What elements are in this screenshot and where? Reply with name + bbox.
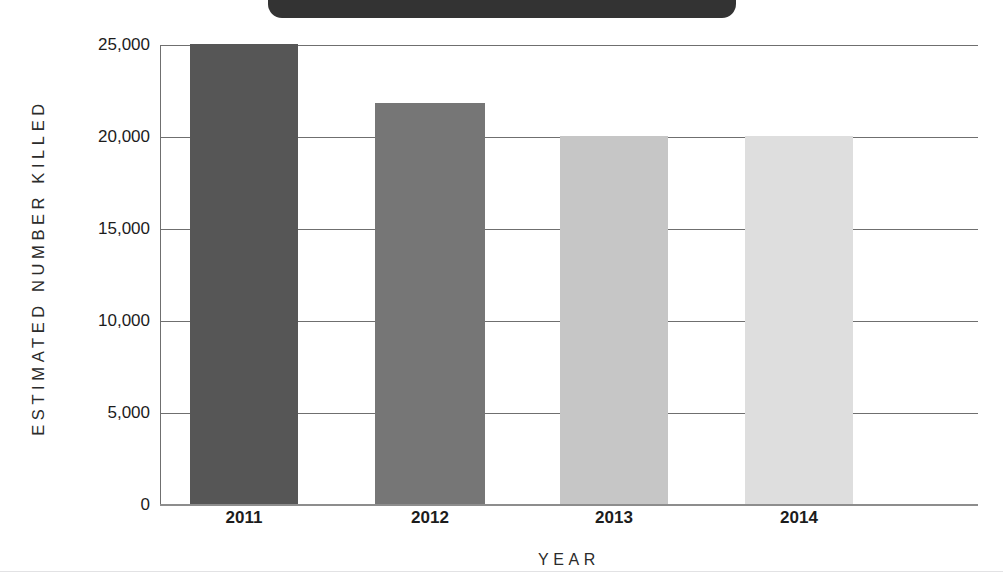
plot-area (160, 45, 978, 505)
bar-2012[interactable] (375, 103, 485, 504)
bar-2011[interactable] (190, 44, 298, 504)
y-tick-label: 0 (42, 495, 150, 515)
y-axis-tick-labels: 25,000 20,000 15,000 10,000 5,000 0 (42, 0, 150, 584)
y-tick-label: 20,000 (42, 127, 150, 147)
x-axis-tick-labels: 2011 2012 2013 2014 (160, 508, 978, 538)
x-tick-label: 2014 (780, 508, 818, 528)
bar-2013[interactable] (560, 136, 668, 504)
x-tick-label: 2012 (411, 508, 449, 528)
x-axis-line (160, 504, 978, 506)
bar-2014[interactable] (745, 136, 853, 504)
x-tick-label: 2013 (595, 508, 633, 528)
x-tick-label: 2011 (226, 508, 263, 528)
y-tick-label: 15,000 (42, 219, 150, 239)
x-axis-title: YEAR (160, 551, 978, 569)
chart-screenshot: ESTIMATED NUMBER KILLED 25,000 20,000 15… (0, 0, 1003, 584)
y-tick-label: 25,000 (42, 35, 150, 55)
y-axis-line (160, 45, 161, 505)
bar-chart: ESTIMATED NUMBER KILLED 25,000 20,000 15… (0, 0, 1003, 584)
y-tick-label: 10,000 (42, 311, 150, 331)
y-tick-label: 5,000 (42, 403, 150, 423)
bottom-divider (0, 571, 1003, 572)
